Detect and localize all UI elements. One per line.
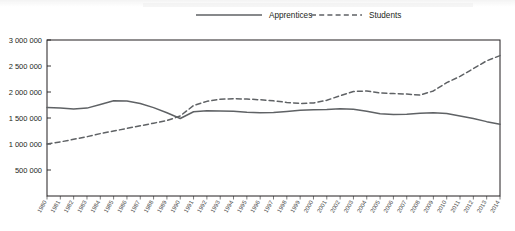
x-tick-label: 2000: [303, 199, 315, 214]
x-tick-label: 2011: [449, 200, 461, 214]
plot-frame: [47, 40, 500, 196]
x-tick-label: 1995: [236, 199, 248, 214]
x-tick-label: 1996: [249, 199, 261, 214]
x-tick-label: 2003: [343, 199, 355, 214]
x-tick-label: 2010: [436, 199, 448, 214]
x-tick-label: 1989: [156, 200, 168, 214]
line-chart: ApprenticesStudents 500 0001 000 0001 50…: [0, 0, 515, 231]
x-tick-label: 1986: [116, 199, 128, 214]
x-tick-label: 2001: [316, 200, 328, 214]
x-tick-label: 1990: [169, 199, 181, 214]
y-tick-label: 3 000 000: [9, 36, 42, 45]
legend-label-apprentices: Apprentices: [269, 11, 312, 20]
series-layer: [47, 56, 500, 144]
x-tick-label: 1988: [143, 199, 155, 214]
x-tick-label: 1994: [223, 199, 235, 214]
x-tick-label: 2005: [369, 199, 381, 214]
x-tick-label: 1991: [183, 200, 195, 214]
chart-container: ApprenticesStudents 500 0001 000 0001 50…: [0, 0, 515, 231]
x-tick-label: 1984: [89, 199, 101, 214]
x-tick-label: 1985: [103, 199, 115, 214]
x-tick-label: 1999: [289, 200, 301, 214]
x-tick-label: 2012: [462, 200, 474, 214]
x-tick-label: 2007: [396, 200, 408, 214]
x-tick-label: 2002: [329, 200, 341, 214]
x-tick-label: 2008: [409, 199, 421, 214]
series-line-students: [47, 56, 500, 144]
plot-border: [47, 40, 500, 196]
x-tick-label: 2013: [476, 199, 488, 214]
y-tick-label: 1 500 000: [9, 114, 42, 123]
x-axis: 1980198119821983198419851986198719881989…: [36, 196, 501, 214]
x-tick-label: 1997: [263, 200, 275, 214]
x-tick-label: 1983: [76, 199, 88, 214]
x-tick-label: 2014: [489, 199, 501, 214]
x-tick-label: 1982: [63, 200, 75, 214]
y-tick-label: 1 000 000: [9, 140, 42, 149]
legend-label-students: Students: [369, 11, 401, 20]
y-axis: 500 0001 000 0001 500 0002 000 0002 500 …: [9, 36, 51, 175]
x-tick-label: 1992: [196, 200, 208, 214]
x-tick-label: 2006: [383, 199, 395, 214]
series-line-apprentices: [47, 101, 500, 124]
y-tick-label: 2 000 000: [9, 88, 42, 97]
x-tick-label: 1993: [209, 199, 221, 214]
chart-legend: ApprenticesStudents: [196, 11, 401, 20]
y-tick-label: 2 500 000: [9, 62, 42, 71]
y-tick-label: 500 000: [15, 166, 42, 175]
x-tick-label: 1981: [49, 200, 61, 214]
x-tick-label: 2004: [356, 199, 368, 214]
x-tick-label: 1980: [36, 199, 48, 214]
x-tick-label: 1987: [129, 200, 141, 214]
x-tick-label: 1998: [276, 199, 288, 214]
x-tick-label: 2009: [422, 200, 434, 214]
